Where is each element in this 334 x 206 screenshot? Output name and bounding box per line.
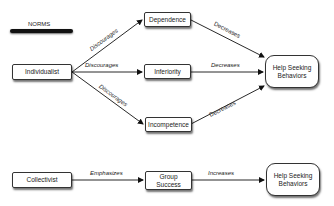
edge-label-decreases-2: Decreases [211,62,240,68]
node-dependence: Dependence [144,12,191,27]
norms-bar [10,29,73,33]
edge-label-increases: Increases [208,170,234,176]
edge-dependence-help [191,20,264,57]
node-collectivist: Collectivist [12,172,72,188]
node-incompetence-label: Incompetence [148,121,189,128]
node-group-success-label: Group Success [154,173,184,188]
norms-title: NORMS [28,21,50,27]
node-individualist-label: Individualist [25,68,59,75]
node-help-seeking-bottom: Help Seeking Behaviors [266,163,320,196]
edge-label-emphasizes: Emphasizes [90,170,123,176]
edge-label-discourages-2: Discourages [85,62,118,68]
node-help-seeking-bottom-label: Help Seeking Behaviors [267,172,319,187]
node-dependence-label: Dependence [149,16,186,23]
node-collectivist-label: Collectivist [26,176,57,183]
node-help-seeking-top: Help Seeking Behaviors [265,55,319,88]
diagram-canvas: NORMS Individualist Dependence Inferiori… [0,0,334,206]
node-help-seeking-top-label: Help Seeking Behaviors [266,64,318,79]
edge-individualist-incompetence [72,72,143,124]
node-inferiority: Inferiority [144,64,191,79]
node-individualist: Individualist [12,64,72,80]
node-group-success: Group Success [145,171,192,190]
node-incompetence: Incompetence [145,117,192,132]
node-inferiority-label: Inferiority [154,68,181,75]
